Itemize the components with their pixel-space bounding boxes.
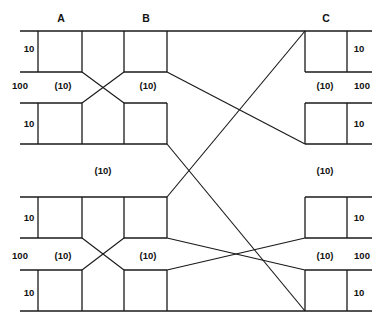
trunk-left-bottom: 100 xyxy=(12,250,28,261)
link-a-top: (10) xyxy=(55,80,72,91)
link-c-bottom: (10) xyxy=(317,250,334,261)
edge-r4: 10 xyxy=(354,287,365,298)
link-c-top: (10) xyxy=(317,80,334,91)
link-mid-right: (10) xyxy=(317,165,334,176)
edge-r1: 10 xyxy=(354,43,365,54)
edge-l3: 10 xyxy=(24,212,35,223)
stage-label-A: A xyxy=(57,12,65,24)
edge-r2: 10 xyxy=(354,118,365,129)
link-a-bottom: (10) xyxy=(55,250,72,261)
link-b-bottom: (10) xyxy=(140,250,157,261)
diagram-background xyxy=(0,0,382,328)
link-mid-left: (10) xyxy=(95,165,112,176)
trunk-right-bottom: 100 xyxy=(354,250,370,261)
link-b-top: (10) xyxy=(140,80,157,91)
stage-label-C: C xyxy=(322,12,330,24)
edge-l2: 10 xyxy=(24,118,35,129)
stage-label-B: B xyxy=(142,12,150,24)
trunk-left-top: 100 xyxy=(12,80,28,91)
edge-r3: 10 xyxy=(354,212,365,223)
network-diagram-canvas: ABC 100100100100 1010101010101010 (10)(1… xyxy=(0,0,382,328)
clos-network-diagram: ABC 100100100100 1010101010101010 (10)(1… xyxy=(0,0,382,328)
edge-l1: 10 xyxy=(24,43,35,54)
edge-l4: 10 xyxy=(24,287,35,298)
trunk-right-top: 100 xyxy=(354,80,370,91)
